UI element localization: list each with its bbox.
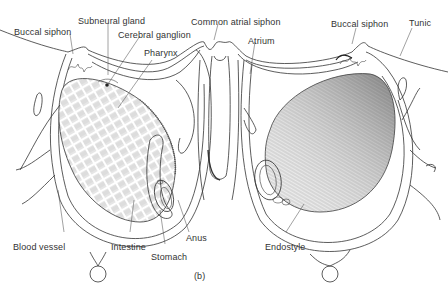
tunicate-colony-diagram <box>0 0 448 294</box>
label-common-atrial-siphon: Common atrial siphon <box>191 18 281 27</box>
label-cerebral-ganglion: Cerebral ganglion <box>118 31 191 40</box>
label-blood-vessel: Blood vessel <box>13 243 65 252</box>
label-subneural-gland: Subneural gland <box>78 17 145 26</box>
label-tunic: Tunic <box>409 19 431 28</box>
label-buccal-siphon-left: Buccal siphon <box>14 28 71 37</box>
pharynx-basket <box>59 79 176 222</box>
label-endostyle: Endostyle <box>265 243 305 252</box>
panel-label: (b) <box>194 272 205 281</box>
label-intestine: Intestine <box>111 243 146 252</box>
label-anus: Anus <box>186 234 207 243</box>
label-stomach: Stomach <box>151 253 187 262</box>
label-atrium: Atrium <box>248 37 275 46</box>
label-buccal-siphon-right: Buccal siphon <box>331 20 388 29</box>
label-pharynx: Pharynx <box>144 49 178 58</box>
